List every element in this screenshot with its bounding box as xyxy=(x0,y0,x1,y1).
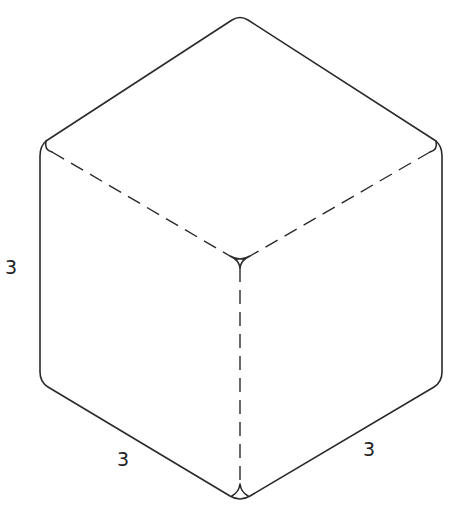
top-right-fillet xyxy=(430,141,436,152)
dashed-edge-left xyxy=(52,152,230,256)
height-label: 3 xyxy=(5,258,17,277)
top-left-fillet xyxy=(46,141,52,152)
center-fillet xyxy=(230,256,250,268)
left-width-label: 3 xyxy=(117,450,129,469)
bottom-fillet xyxy=(232,484,248,496)
dashed-edge-right xyxy=(250,152,430,256)
right-depth-label: 3 xyxy=(363,440,375,459)
cube-diagram xyxy=(0,0,467,521)
